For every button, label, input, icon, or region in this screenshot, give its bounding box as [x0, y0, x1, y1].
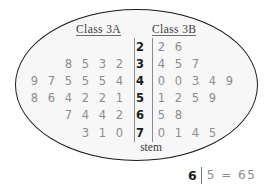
- stem-and-leaf-figure: Class 3A Class 3B 2268532345797555440034…: [0, 0, 275, 194]
- leaf-digit: 2: [170, 91, 187, 105]
- leaf-digit: 5: [77, 74, 94, 88]
- leaf-digit: 9: [26, 74, 43, 88]
- stem-axis-label: stem: [126, 141, 176, 153]
- leaf-digit: 0: [153, 74, 170, 88]
- stem-divider-right: [152, 38, 153, 142]
- right-leaf-group: 26: [149, 40, 249, 54]
- stem-row: 86422151259: [18, 90, 254, 107]
- left-leaf-group: 975554: [18, 74, 131, 88]
- leaf-digit: 8: [60, 57, 77, 71]
- leaf-digit: 4: [204, 74, 221, 88]
- leaf-digit: 5: [94, 74, 111, 88]
- stem-row: 85323457: [18, 55, 254, 72]
- leaf-digit: 5: [170, 57, 187, 71]
- right-leaf-group: 0145: [149, 126, 249, 140]
- stem-rows: 2268532345797555440034986422151259744265…: [18, 38, 254, 141]
- leaf-digit: 9: [221, 74, 238, 88]
- leaf-digit: 0: [111, 126, 128, 140]
- leaf-digit: 5: [153, 108, 170, 122]
- key-stem-digit: 6: [188, 168, 201, 183]
- leaf-digit: 7: [187, 57, 204, 71]
- leaf-digit: 2: [111, 108, 128, 122]
- leaf-digit: 5: [60, 74, 77, 88]
- leaf-digit: 1: [94, 126, 111, 140]
- leaf-digit: 9: [204, 91, 221, 105]
- class-3b-header: Class 3B: [152, 23, 196, 36]
- leaf-digit: 0: [153, 126, 170, 140]
- leaf-digit: 4: [187, 126, 204, 140]
- leaf-digit: 4: [111, 74, 128, 88]
- left-leaf-group: 8532: [18, 57, 131, 71]
- leaf-digit: 5: [77, 57, 94, 71]
- stem-leaf-plot: 2268532345797555440034986422151259744265…: [18, 38, 254, 142]
- leaf-digit: 4: [153, 57, 170, 71]
- leaf-digit: 3: [187, 74, 204, 88]
- leaf-digit: 2: [77, 91, 94, 105]
- leaf-digit: 2: [111, 57, 128, 71]
- leaf-digit: 4: [60, 91, 77, 105]
- leaf-digit: 0: [170, 74, 187, 88]
- key-expression: 5 = 65: [202, 168, 257, 182]
- leaf-digit: 7: [43, 74, 60, 88]
- leaf-digit: 4: [94, 108, 111, 122]
- leaf-digit: 4: [77, 108, 94, 122]
- leaf-digit: 1: [153, 91, 170, 105]
- leaf-digit: 1: [111, 91, 128, 105]
- stem-row: 31070145: [18, 124, 254, 141]
- stem-divider-left: [134, 38, 135, 142]
- stem-row: 226: [18, 38, 254, 55]
- leaf-digit: 2: [153, 40, 170, 54]
- right-leaf-group: 00349: [149, 74, 249, 88]
- stem-row: 975554400349: [18, 72, 254, 89]
- left-leaf-group: 864221: [18, 91, 131, 105]
- left-leaf-group: 310: [18, 126, 131, 140]
- leaf-digit: 2: [94, 91, 111, 105]
- leaf-digit: 6: [170, 40, 187, 54]
- right-leaf-group: 1259: [149, 91, 249, 105]
- leaf-digit: 7: [60, 108, 77, 122]
- leaf-digit: 3: [77, 126, 94, 140]
- leaf-digit: 8: [170, 108, 187, 122]
- leaf-digit: 5: [204, 126, 221, 140]
- leaf-digit: 8: [26, 91, 43, 105]
- leaf-digit: 5: [187, 91, 204, 105]
- leaf-digit: 3: [94, 57, 111, 71]
- left-leaf-group: 7442: [18, 108, 131, 122]
- leaf-digit: 1: [170, 126, 187, 140]
- stem-row: 7442658: [18, 107, 254, 124]
- right-leaf-group: 457: [149, 57, 249, 71]
- right-leaf-group: 58: [149, 108, 249, 122]
- plot-key: 6 5 = 65: [188, 166, 256, 184]
- leaf-digit: 6: [43, 91, 60, 105]
- class-3a-header: Class 3A: [76, 23, 121, 36]
